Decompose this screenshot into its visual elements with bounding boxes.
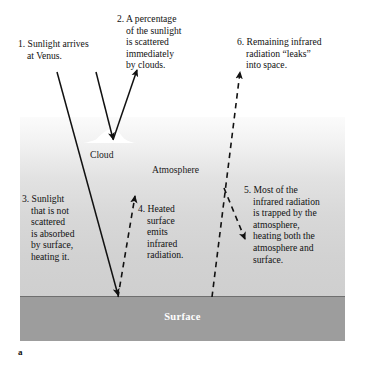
cloud-label: Cloud	[90, 149, 113, 160]
callout-trapped-by-atmosphere: 5. Most of the infrared radiation is tra…	[244, 184, 357, 265]
callout-surface-emits-infrared: 4. Heated surface emits infrared radiati…	[138, 203, 217, 261]
callout-scattered-by-clouds: 2. A percentage of the sunlight is scatt…	[117, 13, 222, 71]
surface-region: Surface	[20, 296, 345, 341]
callout-leaks-into-space: 6. Remaining infrared radiation “leaks” …	[237, 36, 358, 71]
figure-letter: a	[18, 347, 23, 357]
cloud-shape	[82, 126, 138, 144]
venus-greenhouse-effect-diagram: Surface	[0, 0, 366, 367]
surface-label: Surface	[20, 311, 345, 322]
callout-absorbed-by-surface: 3. Sunlight that is not scattered is abs…	[22, 193, 117, 263]
atmosphere-label: Atmosphere	[152, 164, 199, 175]
